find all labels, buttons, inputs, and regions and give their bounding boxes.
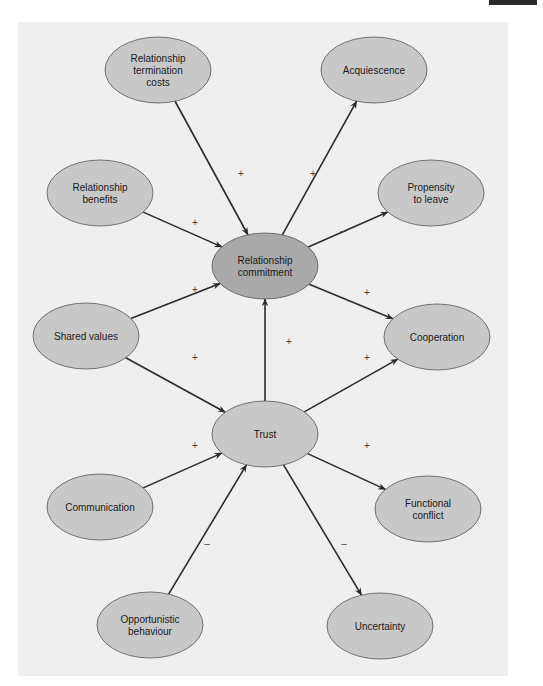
- node-label-line: costs: [146, 77, 169, 88]
- node-functional-conflict: Functionalconflict: [375, 476, 481, 542]
- edge-termination_costs-to-commitment: [175, 101, 248, 235]
- signs-layer: +++–+++++++––: [192, 168, 370, 549]
- node-label-line: Functional: [405, 498, 451, 509]
- node-opportunistic: Opportunisticbehaviour: [97, 592, 203, 658]
- node-trust: Trust: [212, 401, 318, 467]
- edge-sign-label: –: [204, 538, 210, 549]
- node-label-line: Trust: [254, 429, 277, 440]
- relationship-commitment-trust-diagram: +++–+++++++–– Relationshipterminationcos…: [0, 0, 543, 686]
- edge-sign-label: +: [310, 168, 316, 179]
- edge-shared_values-to-commitment: [131, 284, 220, 319]
- edge-sign-label: +: [364, 287, 370, 298]
- node-label-line: to leave: [413, 194, 448, 205]
- edge-trust-to-functional_conflict: [308, 454, 386, 490]
- node-label-line: Communication: [65, 502, 134, 513]
- edges-layer: [126, 101, 398, 595]
- edge-benefits-to-commitment: [143, 212, 222, 247]
- edge-communication-to-trust: [143, 453, 222, 488]
- edge-commitment-to-acquiescence: [282, 101, 356, 235]
- node-label-line: Relationship: [130, 53, 185, 64]
- node-commitment: Relationshipcommitment: [212, 233, 318, 299]
- edge-trust-to-uncertainty: [284, 465, 362, 595]
- edge-shared_values-to-trust: [126, 358, 225, 412]
- edge-sign-label: +: [286, 336, 292, 347]
- node-label-line: behaviour: [128, 626, 173, 637]
- node-label-line: Shared values: [54, 331, 118, 342]
- node-label-line: termination: [133, 65, 182, 76]
- edge-sign-label: –: [341, 538, 347, 549]
- edge-opportunistic-to-trust: [169, 465, 247, 594]
- edge-sign-label: +: [192, 284, 198, 295]
- edge-sign-label: –: [340, 225, 346, 236]
- node-label-line: Uncertainty: [355, 621, 406, 632]
- edge-sign-label: +: [364, 352, 370, 363]
- node-label-line: conflict: [412, 510, 443, 521]
- node-propensity: Propensityto leave: [378, 160, 484, 226]
- nodes-layer: RelationshipterminationcostsAcquiescence…: [33, 37, 490, 659]
- node-uncertainty: Uncertainty: [327, 593, 433, 659]
- node-cooperation: Cooperation: [384, 304, 490, 370]
- node-benefits: Relationshipbenefits: [47, 160, 153, 226]
- edge-trust-to-cooperation: [304, 359, 397, 412]
- edge-sign-label: +: [364, 440, 370, 451]
- node-label-line: Cooperation: [410, 332, 464, 343]
- node-label-line: Opportunistic: [121, 614, 180, 625]
- node-shared-values: Shared values: [33, 303, 139, 369]
- node-label-line: Relationship: [237, 255, 292, 266]
- node-communication: Communication: [47, 474, 153, 540]
- edge-sign-label: +: [238, 168, 244, 179]
- edge-sign-label: +: [192, 352, 198, 363]
- node-label-line: Propensity: [407, 182, 454, 193]
- edge-sign-label: +: [192, 440, 198, 451]
- node-label-line: Relationship: [72, 182, 127, 193]
- node-label-line: commitment: [238, 267, 293, 278]
- node-termination-costs: Relationshipterminationcosts: [105, 37, 211, 103]
- edge-sign-label: +: [192, 217, 198, 228]
- edge-commitment-to-cooperation: [309, 284, 393, 319]
- node-label-line: benefits: [82, 194, 117, 205]
- node-label-line: Acquiescence: [343, 65, 406, 76]
- node-acquiescence: Acquiescence: [321, 37, 427, 103]
- edge-commitment-to-propensity: [308, 212, 387, 247]
